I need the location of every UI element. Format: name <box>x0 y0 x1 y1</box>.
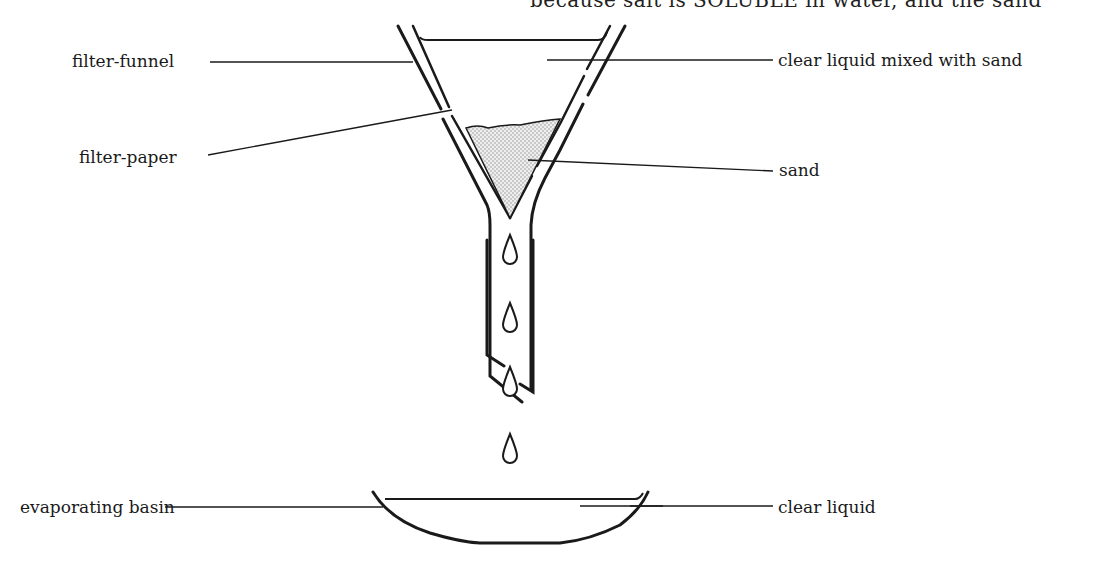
label-evaporating-basin: evaporating basin <box>20 497 175 517</box>
drop-icon <box>503 434 517 463</box>
leader-filter-paper <box>208 110 452 155</box>
label-filter-funnel: filter-funnel <box>72 51 174 71</box>
label-clear-liquid-mixed-with-sand: clear liquid mixed with sand <box>778 50 1022 70</box>
drop-icon <box>503 303 517 332</box>
basin-liquid-surface <box>385 493 643 499</box>
drop-icon <box>503 235 517 264</box>
water-drops <box>503 235 517 463</box>
drop-icon <box>503 367 517 396</box>
label-clear-liquid: clear liquid <box>778 497 876 517</box>
sand-deposit <box>466 119 560 218</box>
label-sand: sand <box>779 160 820 180</box>
liquid-surface <box>420 32 607 40</box>
leader-sand <box>528 160 773 171</box>
label-filter-paper: filter-paper <box>79 147 177 167</box>
filtration-diagram <box>0 0 1094 578</box>
